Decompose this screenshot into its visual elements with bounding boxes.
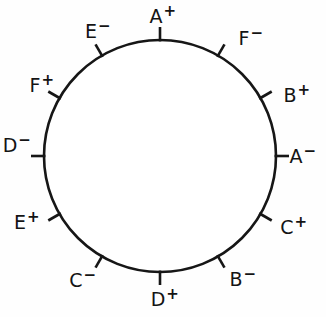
terminal-label-bminus: B− (229, 270, 256, 289)
tick-mark-cminus (96, 255, 103, 268)
diagram-canvas (0, 0, 326, 317)
terminal-label-dminus: D− (3, 136, 32, 155)
terminal-sign: + (41, 70, 54, 88)
terminal-sign: − (303, 141, 316, 159)
terminal-label-cplus: C+ (280, 218, 307, 237)
terminal-label-dplus: D+ (151, 290, 180, 309)
terminal-sign: + (297, 80, 310, 98)
terminal-label-aplus: A+ (149, 7, 176, 26)
tick-mark-fminus (217, 44, 224, 57)
terminal-letter: D (3, 134, 18, 156)
terminal-letter: B (283, 84, 297, 106)
terminal-letter: E (14, 211, 27, 233)
terminal-letter: A (149, 5, 163, 27)
terminal-letter: D (151, 288, 166, 310)
terminal-letter: C (69, 269, 83, 291)
terminal-sign: + (163, 1, 176, 19)
terminal-label-eminus: E− (85, 22, 111, 41)
circle-diagram: A+F−B+A−C+B−D+C−E+D−F+E− (0, 0, 326, 317)
terminal-sign: − (98, 16, 111, 34)
terminal-label-fplus: F+ (29, 76, 54, 95)
terminal-label-eplus: E+ (14, 213, 40, 232)
terminal-letter: F (238, 27, 249, 49)
terminal-sign: − (18, 130, 31, 148)
terminal-sign: + (166, 284, 179, 302)
terminal-letter: B (229, 268, 243, 290)
terminal-label-aminus: A− (289, 147, 316, 166)
terminal-sign: + (295, 212, 308, 230)
terminal-letter: E (85, 20, 98, 42)
terminal-label-cminus: C− (69, 271, 96, 290)
terminal-letter: A (289, 145, 303, 167)
terminal-sign: + (27, 207, 40, 225)
circle-outline (44, 40, 276, 272)
tick-mark-bplus (259, 92, 272, 99)
tick-mark-eminus (96, 44, 103, 57)
terminal-letter: C (280, 216, 294, 238)
terminal-label-fminus: F− (238, 29, 263, 48)
tick-mark-eplus (48, 213, 61, 220)
tick-mark-bminus (217, 255, 224, 268)
terminal-sign: − (84, 265, 97, 283)
terminal-letter: F (29, 74, 40, 96)
tick-mark-cplus (259, 213, 272, 220)
terminal-label-bplus: B+ (283, 86, 310, 105)
terminal-sign: − (243, 264, 256, 282)
terminal-sign: − (250, 23, 263, 41)
